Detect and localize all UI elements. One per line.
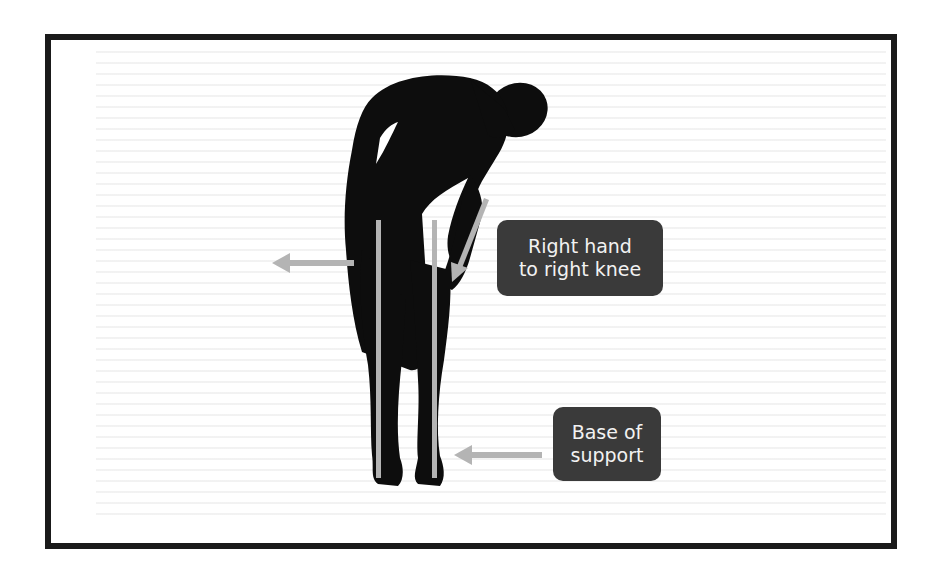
right-leg-guide-line	[432, 220, 437, 478]
label-hand-line1: Right hand	[528, 235, 632, 258]
label-base-line1: Base of	[572, 421, 643, 444]
label-right-hand-to-right-knee: Right hand to right knee	[497, 220, 663, 296]
base-arrow-left	[454, 445, 542, 465]
bending-person-figure	[0, 0, 942, 579]
label-base-of-support: Base of support	[553, 407, 661, 481]
hip-arrow-left	[272, 253, 354, 273]
label-base-line2: support	[571, 444, 644, 467]
label-hand-line2: to right knee	[519, 258, 641, 281]
left-leg-guide-line	[376, 220, 381, 478]
